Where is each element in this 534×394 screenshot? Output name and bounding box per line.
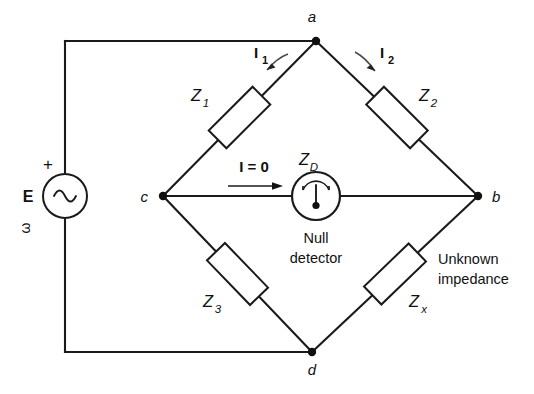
current-label-i1-sub: 1: [262, 54, 268, 66]
detector-impedance-label-sub: D: [310, 161, 318, 173]
impedance-label-z3: Z 3: [202, 292, 222, 315]
impedance-label-z2-text: Z: [418, 86, 430, 104]
impedance-label-z3-sub: 3: [215, 303, 222, 315]
node-label-b: b: [492, 188, 500, 205]
node-label-a: a: [308, 8, 316, 25]
meter-pivot-dot: [312, 202, 319, 209]
impedance-label-zx-sub: x: [420, 303, 428, 315]
node-dot-c: [159, 192, 167, 200]
node-label-d: d: [308, 361, 317, 378]
current-label-i2-text: I: [380, 44, 384, 61]
impedance-label-z2: Z 2: [418, 86, 438, 109]
source-frequency-omega: ω: [17, 222, 33, 233]
impedance-z1-box: [209, 87, 271, 149]
detector-name-line2: detector: [290, 250, 343, 266]
impedance-label-zx-text: Z: [408, 292, 420, 310]
current-label-i2-sub: 2: [388, 54, 394, 66]
detector-impedance-label: Z D: [298, 150, 318, 173]
circuit-svg: a b c d E + ω Z 1 Z 2 Z 3 Z x Unknown im…: [0, 0, 534, 394]
impedance-label-z1: Z 1: [190, 86, 209, 109]
node-dot-a: [312, 37, 320, 45]
current-label-i1-text: I: [254, 44, 258, 61]
unknown-impedance-note-line1: Unknown: [438, 251, 498, 267]
unknown-impedance-note-line2: impedance: [438, 271, 509, 287]
current-label-i0: I = 0: [239, 158, 269, 175]
current-arrow-i1-head: [267, 64, 276, 71]
detector-impedance-label-text: Z: [298, 150, 310, 168]
detector-name-line1: Null: [304, 230, 329, 246]
impedance-label-z1-sub: 1: [203, 97, 209, 109]
impedance-label-z2-sub: 2: [430, 97, 438, 109]
node-dot-b: [474, 192, 482, 200]
source-label-e: E: [23, 188, 34, 205]
circuit-diagram: a b c d E + ω Z 1 Z 2 Z 3 Z x Unknown im…: [0, 0, 534, 394]
current-arrow-i2-head: [367, 65, 376, 72]
impedance-label-z1-text: Z: [190, 86, 202, 104]
impedance-label-zx: Z x: [408, 292, 428, 315]
current-label-i2: I 2: [380, 44, 394, 66]
current-arrow-i0-head: [272, 182, 283, 190]
node-label-c: c: [141, 188, 149, 205]
source-polarity-plus: +: [43, 155, 53, 174]
node-dot-d: [308, 348, 316, 356]
current-label-i1: I 1: [254, 44, 268, 66]
impedance-z3-box: [207, 243, 268, 305]
impedance-label-z3-text: Z: [202, 292, 214, 310]
